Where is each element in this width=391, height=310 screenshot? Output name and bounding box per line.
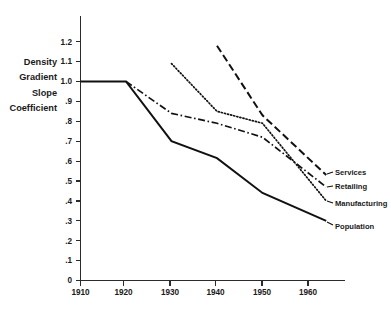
y-tick-label-0.8: .8	[65, 117, 72, 126]
y-tick-label-0.1: .1	[65, 256, 72, 265]
series-line-retailing	[126, 82, 326, 187]
y-tick-label-0.7: .7	[65, 137, 72, 146]
x-tick-label-1940: 1940	[206, 288, 225, 297]
y-tick-label-0.9: .9	[65, 97, 72, 106]
leader-population	[327, 222, 333, 225]
y-tick-label-0.2: .2	[65, 237, 72, 246]
series-label-manufacturing: Manufacturing	[335, 199, 388, 208]
y-tick-label-1.0: 1.0	[61, 77, 73, 86]
y-axis-title-line-3: Slope	[32, 88, 57, 98]
leader-retailing	[327, 186, 333, 187]
y-axis-title-line-4: Coefficient	[10, 103, 57, 113]
line-chart-canvas: 0 .1 .2 .3 .4 .5 .6 .7 .8 .9 1.0 1.1 1.2…	[0, 0, 391, 310]
y-tick-label-0.3: .3	[65, 217, 72, 226]
series-label-services: Services	[335, 168, 366, 177]
series-labels: Services Retailing Manufacturing Populat…	[327, 168, 388, 231]
series-label-population: Population	[335, 222, 375, 231]
series-paths	[81, 46, 327, 221]
y-tick-label-0.6: .6	[65, 157, 72, 166]
chart-figure: 0 .1 .2 .3 .4 .5 .6 .7 .8 .9 1.0 1.1 1.2…	[0, 0, 391, 310]
leader-manufacturing	[327, 201, 333, 203]
x-tick-label-1920: 1920	[114, 288, 133, 297]
y-tick-label-1.1: 1.1	[61, 57, 73, 66]
y-axis-title: Density Gradient Slope Coefficient	[10, 57, 58, 114]
x-tick-label-1950: 1950	[253, 288, 272, 297]
series-line-population	[81, 82, 327, 221]
x-tick-labels: 1910 1920 1930 1940 1950 1960	[71, 288, 317, 297]
y-tick-label-1.2: 1.2	[61, 38, 73, 47]
y-tick-label-0: 0	[67, 276, 72, 285]
y-axis-title-line-2: Gradient	[19, 72, 57, 82]
leader-services	[327, 172, 333, 174]
y-tick-labels: 0 .1 .2 .3 .4 .5 .6 .7 .8 .9 1.0 1.1 1.2	[61, 38, 73, 286]
series-label-retailing: Retailing	[335, 182, 367, 191]
y-axis-title-line-1: Density	[24, 57, 58, 67]
y-tick-label-0.4: .4	[65, 197, 72, 206]
x-tick-label-1910: 1910	[71, 288, 90, 297]
y-tick-label-0.5: .5	[65, 177, 72, 186]
series-line-services	[217, 46, 326, 175]
x-tick-label-1960: 1960	[299, 288, 318, 297]
x-tick-label-1930: 1930	[161, 288, 180, 297]
